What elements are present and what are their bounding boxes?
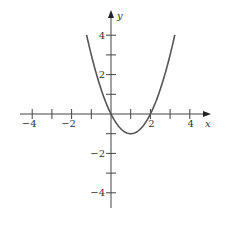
y-tick-label: −4 (90, 187, 105, 198)
x-tick-label: −2 (61, 118, 76, 129)
x-tick-label: 2 (148, 118, 154, 129)
y-tick-label: 4 (99, 30, 105, 41)
x-axis-arrow-icon (203, 111, 211, 117)
y-tick-label: −2 (90, 148, 105, 159)
x-axis-label: x (205, 118, 211, 129)
y-tick-label: 2 (99, 69, 105, 80)
axes (20, 10, 211, 208)
y-axis-label: y (116, 10, 123, 21)
x-tick-label: −4 (22, 118, 37, 129)
x-tick-label: 4 (188, 118, 194, 129)
parabola-chart: −4−22442−2−4 x y (0, 0, 228, 227)
y-axis-arrow-icon (108, 10, 114, 18)
